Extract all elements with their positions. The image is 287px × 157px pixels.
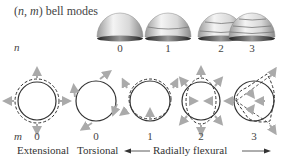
circle-m-2: 2: [191, 130, 211, 142]
bell-n-2: 2: [211, 42, 231, 54]
mode-circle-flexural-2: [182, 70, 220, 132]
row-label-m: m: [14, 130, 22, 142]
row-label-n: n: [14, 41, 20, 53]
bell-n-0: 0: [110, 42, 130, 54]
bell-dome-n1: [145, 13, 191, 42]
circle-m-3: 3: [244, 130, 264, 142]
mode-circle-torsional: [74, 73, 117, 128]
mode-circle-extensional: [7, 71, 67, 131]
circle-m-0-ext: 0: [27, 130, 47, 142]
mode-circle-flexural-1: [123, 79, 176, 121]
bell-n-1: 1: [158, 42, 178, 54]
bell-dome-n0: [97, 13, 143, 42]
circle-m-1: 1: [140, 130, 160, 142]
bell-n-3: 3: [242, 42, 262, 54]
circle-m-0-tor: 0: [86, 130, 106, 142]
label-torsional: Torsional: [77, 144, 118, 156]
label-radially-flexural: Radially flexural: [153, 144, 227, 156]
mode-circle-flexural-3: [228, 71, 274, 131]
label-extensional: Extensional: [17, 144, 69, 156]
bell-dome-n3: [229, 13, 275, 42]
